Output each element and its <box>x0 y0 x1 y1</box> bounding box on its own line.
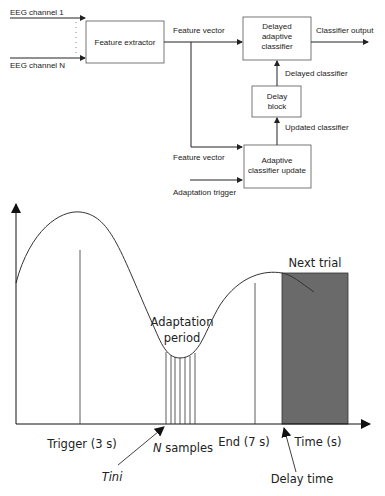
input-label-channel-n: EEG channel N <box>10 61 65 70</box>
delay-time-label: Delay time <box>271 472 334 486</box>
next-trial-label: Next trial <box>288 256 341 270</box>
delayed-classifier-line-2: adaptive <box>262 32 293 41</box>
adaptation-trigger-label: Adaptation trigger <box>173 188 236 197</box>
adaptive-update-line-1: Adaptive <box>261 156 293 165</box>
n-samples-label: N samples <box>153 441 213 455</box>
figure-canvas: EEG channel 1 EEG channel N Feature extr… <box>0 0 385 496</box>
next-trial-region <box>282 273 348 424</box>
adaptation-period-line-1: Adaptation <box>151 315 214 329</box>
feature-vector-branch-arrow <box>191 42 242 147</box>
adaptive-update-line-2: classifier update <box>248 166 306 175</box>
input-label-channel-1: EEG channel 1 <box>10 8 64 17</box>
feature-vector-label-bottom: Feature vector <box>173 153 225 162</box>
feature-vector-label-top: Feature vector <box>173 26 225 35</box>
classifier-output-label: Classifier output <box>316 26 374 35</box>
adaptation-period-line-2: period <box>164 331 201 345</box>
block-diagram: EEG channel 1 EEG channel N Feature extr… <box>10 8 374 197</box>
delay-block-line-2: block <box>268 102 288 111</box>
timeline-diagram: Adaptation period Next trial Trigger (3 … <box>16 204 370 486</box>
feature-extractor-label: Feature extractor <box>95 38 156 47</box>
samples-text: samples <box>162 441 213 455</box>
end-label: End (7 s) <box>218 435 269 449</box>
updated-classifier-label: Updated classifier <box>285 123 349 132</box>
n-sample-lines <box>166 352 195 424</box>
delayed-classifier-line-3: classifier <box>261 42 292 51</box>
delay-block-line-1: Delay <box>267 92 287 101</box>
tini-label: Tini <box>102 470 124 484</box>
delayed-classifier-line-1: Delayed <box>262 22 291 31</box>
trigger-label: Trigger (3 s) <box>46 437 116 451</box>
time-axis-label: Time (s) <box>294 435 342 449</box>
delayed-classifier-signal-label: Delayed classifier <box>285 69 348 78</box>
